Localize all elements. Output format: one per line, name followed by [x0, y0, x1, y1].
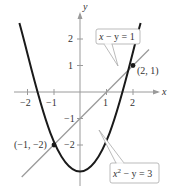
system-of-equations-plot: x y −2 −1 1 2 2 1 −1 −2 (2, 1) (−1, −2) …: [0, 0, 170, 189]
x-tick-label: 1: [103, 97, 108, 108]
x-tick-label: −1: [46, 97, 57, 108]
y-axis-label: y: [82, 1, 88, 12]
x-axis-label: x: [161, 86, 167, 97]
line-x-minus-y-eq-1: [22, 50, 149, 178]
x-tick-label: 2: [130, 97, 135, 108]
x-axis-arrow-icon: [153, 90, 160, 95]
y-axis-arrow-icon: [78, 12, 83, 19]
y-tick-label: −2: [64, 139, 75, 150]
y-tick-label: 1: [68, 60, 73, 71]
intersection-point: [52, 143, 57, 148]
y-tick-label: 2: [68, 33, 73, 44]
x-tick-label: −2: [20, 97, 31, 108]
point-label-2-1: (2, 1): [137, 65, 159, 77]
y-tick-label: −1: [64, 113, 75, 124]
callout-line-text: x − y = 1: [98, 31, 135, 42]
point-label-neg1-neg2: (−1, −2): [14, 139, 47, 151]
intersection-point: [131, 63, 136, 68]
